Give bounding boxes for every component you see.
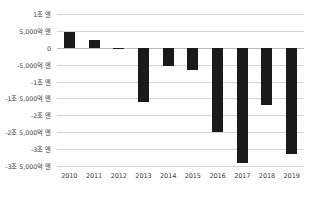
y-axis-tick-label: -2조 5,000억 엔 (5, 128, 51, 137)
bar (261, 48, 272, 105)
bar (89, 40, 100, 48)
bar (286, 48, 297, 154)
y-axis-tick-label: -3조 5,000억 엔 (5, 162, 51, 171)
x-axis-tick-label: 2010 (61, 172, 77, 180)
bar (113, 48, 124, 49)
y-axis-tick-label: 1조 엔 (33, 10, 51, 19)
y-axis-tick-label: -1조 엔 (31, 77, 51, 86)
gridline (57, 166, 304, 167)
y-axis-tick-label: 0 (47, 44, 51, 51)
x-axis-tick-label: 2015 (185, 172, 201, 180)
bar (64, 32, 75, 48)
y-axis-tick-label: 5,000억 엔 (19, 26, 51, 35)
y-axis-tick-label: -2조 엔 (31, 111, 51, 120)
x-axis-tick-label: 2016 (209, 172, 225, 180)
bar-chart: 1조 엔5,000억 엔0-5,000억 엔-1조 엔-1조 5,000억 엔-… (0, 0, 312, 199)
x-axis: 2010201120122013201420152016201720182019 (57, 172, 304, 186)
x-axis-tick-label: 2014 (160, 172, 176, 180)
bar (212, 48, 223, 132)
bar (163, 48, 174, 67)
bar (187, 48, 198, 70)
y-axis-tick-label: -5,000억 엔 (17, 60, 51, 69)
y-axis-tick-label: -1조 5,000억 엔 (5, 94, 51, 103)
x-axis-tick-label: 2017 (234, 172, 250, 180)
bar (237, 48, 248, 163)
x-axis-tick-label: 2018 (259, 172, 275, 180)
x-axis-tick-label: 2013 (135, 172, 151, 180)
y-axis: 1조 엔5,000억 엔0-5,000억 엔-1조 엔-1조 5,000억 엔-… (0, 14, 54, 166)
x-axis-tick-label: 2019 (284, 172, 300, 180)
bars-layer (57, 14, 304, 166)
y-axis-tick-label: -3조 엔 (31, 145, 51, 154)
x-axis-tick-label: 2012 (111, 172, 127, 180)
x-axis-tick-label: 2011 (86, 172, 102, 180)
bar (138, 48, 149, 102)
